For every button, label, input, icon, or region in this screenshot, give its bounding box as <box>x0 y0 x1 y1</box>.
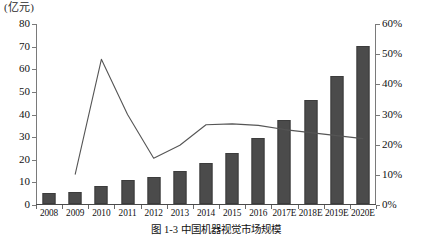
y-axis-right-tick <box>376 84 380 85</box>
y-axis-right-tick <box>376 54 380 55</box>
y-axis-right-tick-label: 40% <box>382 78 402 89</box>
x-axis-tick-label: 2013 <box>171 208 189 218</box>
y-axis-unit-label: (亿元) <box>4 1 34 13</box>
y-axis-left-tick-label: 40 <box>19 109 30 120</box>
x-axis-tick <box>141 205 142 209</box>
x-axis-tick <box>245 205 246 209</box>
y-axis-right-tick-label: 20% <box>382 139 402 150</box>
x-axis-tick <box>114 205 115 209</box>
x-axis-tick <box>62 205 63 209</box>
y-axis-right-tick <box>376 115 380 116</box>
x-axis-tick-label: 2010 <box>92 208 110 218</box>
y-axis-right-tick-label: 10% <box>382 169 402 180</box>
growth-rate-line-series <box>36 24 376 205</box>
x-axis-tick-label: 2008 <box>40 208 58 218</box>
y-axis-right-tick-label: 30% <box>382 109 402 120</box>
x-axis-tick-label: 2011 <box>119 208 137 218</box>
x-axis-tick <box>167 205 168 209</box>
x-axis-tick-label: 2019E <box>325 208 349 218</box>
x-axis-tick <box>36 205 37 209</box>
y-axis-left-tick-label: 80 <box>19 18 30 29</box>
y-axis-right-tick-label: 0% <box>382 199 397 210</box>
x-axis-tick <box>376 205 377 209</box>
y-axis-right-tick <box>376 175 380 176</box>
y-axis-right-tick-label: 60% <box>382 18 402 29</box>
x-axis-tick <box>88 205 89 209</box>
x-axis-tick-label: 2009 <box>66 208 84 218</box>
x-axis-tick <box>193 205 194 209</box>
y-axis-left-tick-label: 50 <box>19 86 30 97</box>
figure-container: (亿元) 01020304050607080 0%10%20%30%40%50%… <box>0 0 432 236</box>
x-axis-tick <box>219 205 220 209</box>
plot-area: 01020304050607080 0%10%20%30%40%50%60% 2… <box>36 24 376 205</box>
figure-caption: 图 1-3 中国机器视觉市场规模 <box>0 224 432 236</box>
x-axis-tick-label: 2014 <box>197 208 215 218</box>
x-axis-tick-label: 2016 <box>249 208 267 218</box>
y-axis-left-tick-label: 10 <box>19 176 30 187</box>
y-axis-left-tick-label: 60 <box>19 63 30 74</box>
x-axis-tick-label: 2015 <box>223 208 241 218</box>
y-axis-right-tick-label: 50% <box>382 48 402 59</box>
y-axis-left-tick-label: 70 <box>19 41 30 52</box>
x-axis-tick-label: 2018E <box>299 208 323 218</box>
x-axis-tick-label: 2020E <box>351 208 375 218</box>
y-axis-right-tick <box>376 24 380 25</box>
y-axis-left-tick-label: 0 <box>25 199 31 210</box>
x-axis-tick-label: 2017E <box>273 208 297 218</box>
y-axis-left-tick-label: 20 <box>19 154 30 165</box>
y-axis-left-tick-label: 30 <box>19 131 30 142</box>
x-axis-tick-label: 2012 <box>145 208 163 218</box>
y-axis-right-tick <box>376 145 380 146</box>
